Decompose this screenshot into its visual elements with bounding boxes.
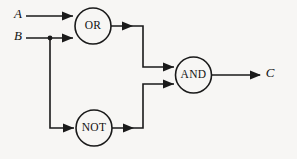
wire-not-to-and bbox=[112, 84, 174, 128]
arrowhead-or-output bbox=[122, 22, 133, 31]
arrowhead-a-into-or bbox=[62, 12, 73, 21]
arrowhead-b-into-not bbox=[63, 124, 74, 133]
wire-b-to-not bbox=[50, 38, 74, 128]
junction-dot-b bbox=[48, 36, 53, 41]
input-label-a: A bbox=[13, 6, 22, 21]
gate-not[interactable]: NOT bbox=[76, 110, 112, 146]
wire-or-to-and bbox=[111, 26, 174, 67]
diagram-canvas: OR AND NOT A B C bbox=[0, 0, 297, 159]
arrowhead-or-into-and bbox=[163, 63, 174, 72]
gate-and[interactable]: AND bbox=[176, 57, 212, 93]
input-label-b: B bbox=[14, 28, 22, 43]
wire-group bbox=[26, 16, 260, 128]
arrowhead-not-into-and bbox=[163, 80, 174, 89]
gate-and-label: AND bbox=[181, 68, 207, 80]
logic-circuit-diagram: OR AND NOT A B C bbox=[0, 0, 297, 159]
gate-or[interactable]: OR bbox=[75, 8, 111, 44]
output-label-c: C bbox=[266, 65, 275, 80]
arrowhead-and-into-c bbox=[250, 71, 261, 80]
arrowhead-not-output bbox=[123, 124, 134, 133]
gate-or-label: OR bbox=[85, 19, 102, 31]
arrowhead-b-into-or bbox=[62, 34, 73, 43]
gate-not-label: NOT bbox=[82, 121, 107, 133]
